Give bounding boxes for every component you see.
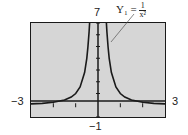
function-annotation: Y₁ = 1 x²: [116, 2, 146, 19]
x-min-label: −3: [11, 96, 24, 107]
x-max-label: 3: [172, 96, 178, 107]
annotation-fraction: 1 x²: [139, 2, 145, 19]
fraction-denominator: x²: [139, 11, 145, 19]
function-plot: [0, 0, 188, 135]
curve-right-branch: [106, 23, 165, 104]
curve-left-branch: [31, 23, 90, 104]
annotation-label: Y₁ =: [116, 3, 137, 15]
y-max-label: 7: [94, 7, 100, 18]
y-min-label: −1: [89, 121, 102, 132]
